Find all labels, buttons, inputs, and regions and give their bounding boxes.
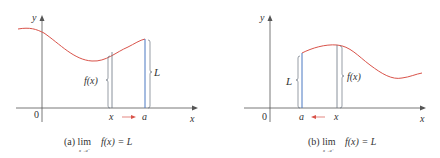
function-curve xyxy=(302,45,422,79)
origin-label: 0 xyxy=(34,109,39,120)
function-curve xyxy=(18,28,145,61)
caption-b-subscript: x→a⁺ xyxy=(322,148,335,153)
y-axis-label: y xyxy=(259,12,265,23)
y-axis-arrow-icon xyxy=(40,15,45,21)
caption-b-prefix: (b) lim xyxy=(308,136,336,148)
x-axis-label: x xyxy=(419,113,425,124)
caption-a-expression: f(x) = L xyxy=(101,136,133,148)
L-brace-label: L xyxy=(153,66,160,78)
L-brace-label: L xyxy=(285,75,292,87)
x-axis-arrow-icon xyxy=(420,106,426,111)
panel-b: y x 0 L f(x) a x (b) lim x→a⁺ f(x) = L xyxy=(244,12,426,153)
a-point-label: a xyxy=(299,111,304,122)
fx-brace-icon xyxy=(106,56,110,108)
right-arrow-icon xyxy=(131,115,136,119)
y-axis-arrow-icon xyxy=(268,15,273,21)
y-axis-label: y xyxy=(31,12,37,23)
left-arrow-icon xyxy=(311,115,316,119)
fx-brace-icon xyxy=(340,46,344,108)
x-point-label: x xyxy=(333,111,339,122)
x-axis-arrow-icon xyxy=(192,106,198,111)
caption-a-subscript: x→a⁻ xyxy=(78,148,91,153)
origin-label: 0 xyxy=(262,111,267,122)
limit-diagrams: y x 0 f(x) L x a (a) lim x→a⁻ f(x) = L y… xyxy=(0,0,440,158)
caption-b-expression: f(x) = L xyxy=(345,136,377,148)
x-point-label: x xyxy=(108,111,114,122)
x-axis-label: x xyxy=(189,113,195,124)
panel-a: y x 0 f(x) L x a (a) lim x→a⁻ f(x) = L xyxy=(16,12,198,153)
L-brace-icon xyxy=(296,56,300,108)
fx-brace-label: f(x) xyxy=(347,71,362,83)
a-point-label: a xyxy=(142,111,147,122)
fx-brace-label: f(x) xyxy=(84,75,99,87)
L-brace-icon xyxy=(148,40,152,108)
caption-a-prefix: (a) lim xyxy=(64,136,91,148)
